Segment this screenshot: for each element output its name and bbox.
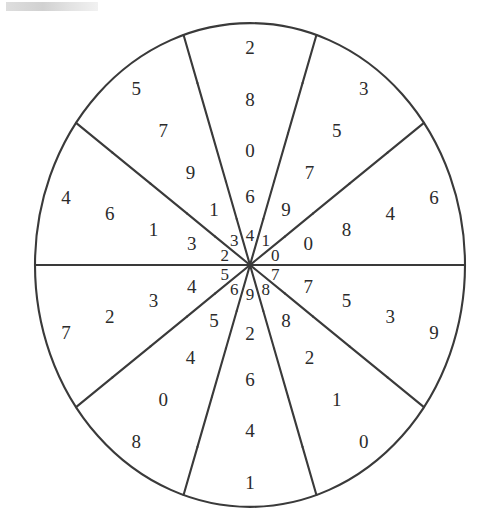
cell-value-r2-s9: 9 xyxy=(186,162,196,183)
cell-value-r3-s1: 5 xyxy=(332,120,342,141)
cell-value-r2-s2: 8 xyxy=(342,219,352,240)
cell-value-r2-s5: 6 xyxy=(245,369,255,390)
cell-value-r4-s6: 8 xyxy=(132,431,142,452)
cell-value-r1-s0: 6 xyxy=(245,186,255,207)
cell-value-r0-s9: 3 xyxy=(230,231,239,250)
cell-value-r3-s2: 4 xyxy=(385,203,395,224)
cell-value-r2-s3: 5 xyxy=(342,290,352,311)
cell-value-r2-s6: 4 xyxy=(186,347,196,368)
wheel-svg: 4107896523690782543107852643198543140267… xyxy=(0,0,497,530)
cell-value-r0-s6: 6 xyxy=(230,280,239,299)
cell-value-r3-s4: 1 xyxy=(332,389,342,410)
cell-value-r2-s4: 2 xyxy=(305,347,315,368)
cell-value-r3-s8: 6 xyxy=(105,203,115,224)
cell-value-r0-s8: 2 xyxy=(220,246,229,265)
cell-value-r3-s6: 0 xyxy=(159,389,169,410)
cell-value-r3-s5: 4 xyxy=(245,420,255,441)
cell-value-r0-s2: 0 xyxy=(271,246,280,265)
cell-value-r1-s3: 7 xyxy=(303,276,313,297)
cell-value-r3-s0: 8 xyxy=(245,89,255,110)
cell-value-r4-s8: 4 xyxy=(61,187,71,208)
cell-value-r4-s7: 7 xyxy=(61,322,71,343)
cell-value-r0-s5: 9 xyxy=(246,285,255,304)
cell-value-r0-s0: 4 xyxy=(246,226,255,245)
cell-value-r4-s5: 1 xyxy=(245,472,255,493)
cell-value-r3-s3: 3 xyxy=(385,306,395,327)
cell-value-r1-s9: 1 xyxy=(209,199,219,220)
cell-value-r2-s8: 1 xyxy=(149,219,159,240)
cell-value-r1-s7: 4 xyxy=(187,276,197,297)
cell-value-r2-s0: 0 xyxy=(245,140,255,161)
cell-value-r4-s2: 6 xyxy=(429,187,439,208)
cell-value-r1-s6: 5 xyxy=(209,310,219,331)
cell-value-r0-s4: 8 xyxy=(261,280,270,299)
cell-value-r3-s9: 7 xyxy=(159,120,169,141)
cell-value-r4-s9: 5 xyxy=(132,78,142,99)
cell-value-r4-s4: 0 xyxy=(359,431,369,452)
cell-value-r4-s3: 9 xyxy=(429,322,439,343)
cell-value-r0-s3: 7 xyxy=(271,265,280,284)
cell-value-r4-s1: 3 xyxy=(359,78,369,99)
cell-value-r0-s7: 5 xyxy=(220,265,229,284)
radial-number-wheel: 4107896523690782543107852643198543140267… xyxy=(0,0,497,530)
cell-value-r1-s1: 9 xyxy=(281,199,291,220)
cell-value-r1-s4: 8 xyxy=(281,310,291,331)
cell-value-r2-s1: 7 xyxy=(305,162,315,183)
cell-value-r1-s2: 0 xyxy=(303,233,313,254)
cell-value-r0-s1: 1 xyxy=(261,231,270,250)
cell-value-r1-s8: 3 xyxy=(187,233,197,254)
cell-value-r3-s7: 2 xyxy=(105,306,115,327)
cell-value-r2-s7: 3 xyxy=(149,290,159,311)
cell-value-r4-s0: 2 xyxy=(245,37,255,58)
cell-value-r1-s5: 2 xyxy=(245,323,255,344)
